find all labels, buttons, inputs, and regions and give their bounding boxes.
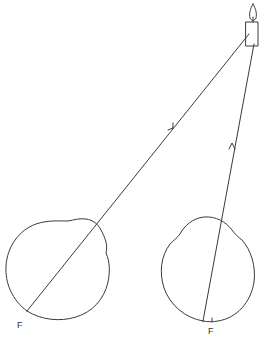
diagram-canvas — [0, 0, 269, 339]
candle-icon — [246, 4, 258, 46]
arrowhead-icon — [229, 143, 235, 149]
left-focus-label: F — [17, 321, 23, 330]
candle-body — [246, 22, 258, 46]
right-focus-label: F — [208, 327, 214, 336]
ray-left — [27, 34, 249, 311]
ray-right — [203, 44, 254, 321]
right-eye-outline — [161, 217, 254, 322]
left-eye-outline — [6, 219, 109, 320]
arrowhead-icon — [168, 123, 173, 130]
